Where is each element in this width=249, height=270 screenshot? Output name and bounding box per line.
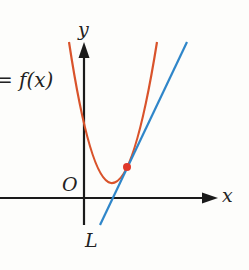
x-axis	[0, 193, 218, 204]
curve-f	[69, 42, 157, 183]
origin-label: O	[62, 175, 78, 194]
y-axis-arrowhead-icon	[79, 42, 90, 58]
tangent-point	[123, 163, 131, 171]
x-axis-label: x	[222, 186, 233, 205]
y-axis-label: y	[78, 20, 89, 39]
x-axis-arrowhead-icon	[202, 193, 218, 204]
function-label: = f(x)	[0, 70, 53, 90]
line-label: L	[85, 231, 98, 250]
function-diagram	[0, 0, 249, 270]
